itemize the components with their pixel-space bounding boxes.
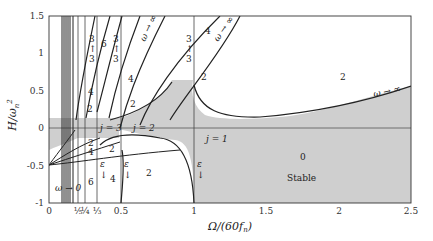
region-label-4-b: 4	[128, 74, 134, 84]
y-axis-label: H/ωn2	[6, 99, 21, 132]
eps-arrow-2: ↓	[124, 170, 132, 180]
x-tick-2: 2	[336, 206, 342, 216]
y-tick-1: 1	[38, 48, 44, 58]
eps-label-3: ε	[197, 159, 202, 169]
three-eps-label-2: 3	[113, 34, 119, 44]
x-tick-1-3: ⅓	[93, 206, 102, 216]
eps-label-1: ε	[100, 159, 105, 169]
three-eps-label-1: 3	[89, 34, 95, 44]
x-tick-1.5: 1.5	[259, 206, 274, 216]
y-tick-neg0.5: -0.5	[27, 161, 45, 171]
up-arrow-1: ↑	[89, 44, 97, 54]
region-label-2-a: 2	[201, 72, 207, 82]
x-tick-1-4: ¼	[81, 206, 90, 216]
three-label-1: 3	[89, 54, 95, 64]
stability-chart: 1.5 1 0.5 0 -0.5 -1 H/ωn2 0 ⅕ ¼ ⅓ 0.5 1 …	[0, 0, 433, 241]
three-eps-label-3: 3	[186, 34, 192, 44]
region-label-4-e: 4	[110, 174, 116, 184]
region-label-0: 0	[300, 152, 306, 162]
j1-label: j = 1	[204, 134, 228, 144]
x-tick-1: 1	[191, 206, 197, 216]
omega-zero-label: ω → 0	[55, 183, 82, 193]
eps-arrow-3: ↓	[197, 170, 205, 180]
x-axis-label: Ω/(60fn)	[207, 220, 252, 234]
y-tick-0: 0	[38, 123, 44, 133]
j3-label: j = 3	[98, 123, 122, 133]
region-label-6-a: 6	[101, 39, 107, 49]
region-label-2-d: 2	[87, 104, 93, 114]
up-arrow-3: ↑	[186, 44, 194, 54]
region-label-6-b: 6	[88, 177, 94, 187]
y-axis: 1.5 1 0.5 0 -0.5 -1 H/ωn2	[6, 11, 44, 208]
region-label-2-e: 2	[146, 168, 152, 178]
stable-label: Stable	[287, 173, 316, 183]
three-label-3: 3	[186, 54, 192, 64]
region-label-4-d: 4	[88, 147, 94, 157]
x-tick-2.5: 2.5	[404, 206, 419, 216]
region-label-2-b: 2	[340, 72, 346, 82]
eps-arrow-1: ↓	[100, 170, 108, 180]
j2-label: j = 2	[131, 123, 155, 133]
region-label-2-c: 2	[130, 99, 136, 109]
region-label-2-f: 2	[109, 144, 115, 154]
three-label-2: 3	[113, 54, 119, 64]
y-tick-neg1: -1	[35, 198, 44, 208]
eps-label-2: ε	[124, 159, 129, 169]
y-tick-0.5: 0.5	[30, 86, 45, 96]
region-label-4-a: 4	[205, 26, 211, 36]
x-tick-0: 0	[46, 206, 52, 216]
y-tick-1.5: 1.5	[30, 11, 45, 21]
x-axis: 0 ⅕ ¼ ⅓ 0.5 1 1.5 2 2.5 Ω/(60fn)	[46, 206, 418, 234]
up-arrow-2: ↑	[113, 44, 121, 54]
region-label-4-c: 4	[88, 87, 94, 97]
x-tick-0.5: 0.5	[114, 206, 129, 216]
